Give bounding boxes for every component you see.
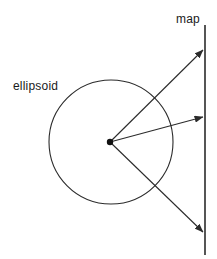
map-label: map xyxy=(176,12,200,26)
projection-center-dot xyxy=(107,139,113,145)
middle-projection-ray xyxy=(110,117,203,142)
upper-projection-ray xyxy=(110,50,203,142)
projection-diagram: ellipsoid map xyxy=(0,0,217,259)
ellipsoid-label: ellipsoid xyxy=(13,79,58,93)
diagram-canvas: ellipsoid map xyxy=(0,0,217,259)
lower-projection-ray xyxy=(110,142,203,232)
